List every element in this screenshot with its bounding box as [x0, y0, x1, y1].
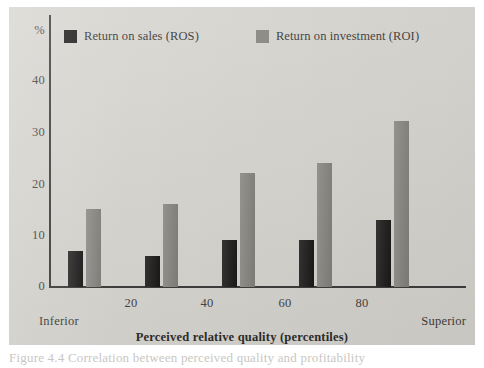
y-tick-label-30: 30 [15, 125, 45, 140]
x-tick-label-40: 40 [187, 296, 227, 311]
x-tick-label-20: 20 [111, 296, 151, 311]
bar-roi-5 [394, 121, 409, 287]
x-axis-end-label: Superior [421, 314, 466, 329]
x-axis-title: Perceived relative quality (percentiles) [9, 330, 475, 345]
y-tick-label-0: 0 [15, 279, 45, 294]
x-tick-label-80: 80 [342, 296, 382, 311]
x-axis-start-label: Inferior [39, 314, 79, 329]
bar-ros-5 [376, 220, 391, 287]
y-tick-label-10: 10 [15, 228, 45, 243]
bar-roi-4 [317, 163, 332, 287]
bar-ros-4 [299, 240, 314, 287]
bar-roi-3 [240, 173, 255, 287]
x-tick-label-60: 60 [265, 296, 305, 311]
bar-roi-2 [163, 204, 178, 287]
figure-container: Return on sales (ROS) Return on investme… [0, 0, 484, 368]
bar-ros-2 [145, 256, 160, 287]
y-axis-unit-label: % [15, 23, 45, 38]
y-tick-label-40: 40 [15, 73, 45, 88]
chart-panel: Return on sales (ROS) Return on investme… [9, 7, 475, 345]
y-axis-labels: % 40 30 20 10 0 [9, 7, 45, 345]
bar-ros-3 [222, 240, 237, 287]
bar-roi-1 [86, 209, 101, 287]
y-tick-label-20: 20 [15, 177, 45, 192]
plot-area [50, 15, 464, 287]
figure-caption: Figure 4.4 Correlation between perceived… [9, 350, 469, 366]
bar-ros-1 [68, 251, 83, 287]
